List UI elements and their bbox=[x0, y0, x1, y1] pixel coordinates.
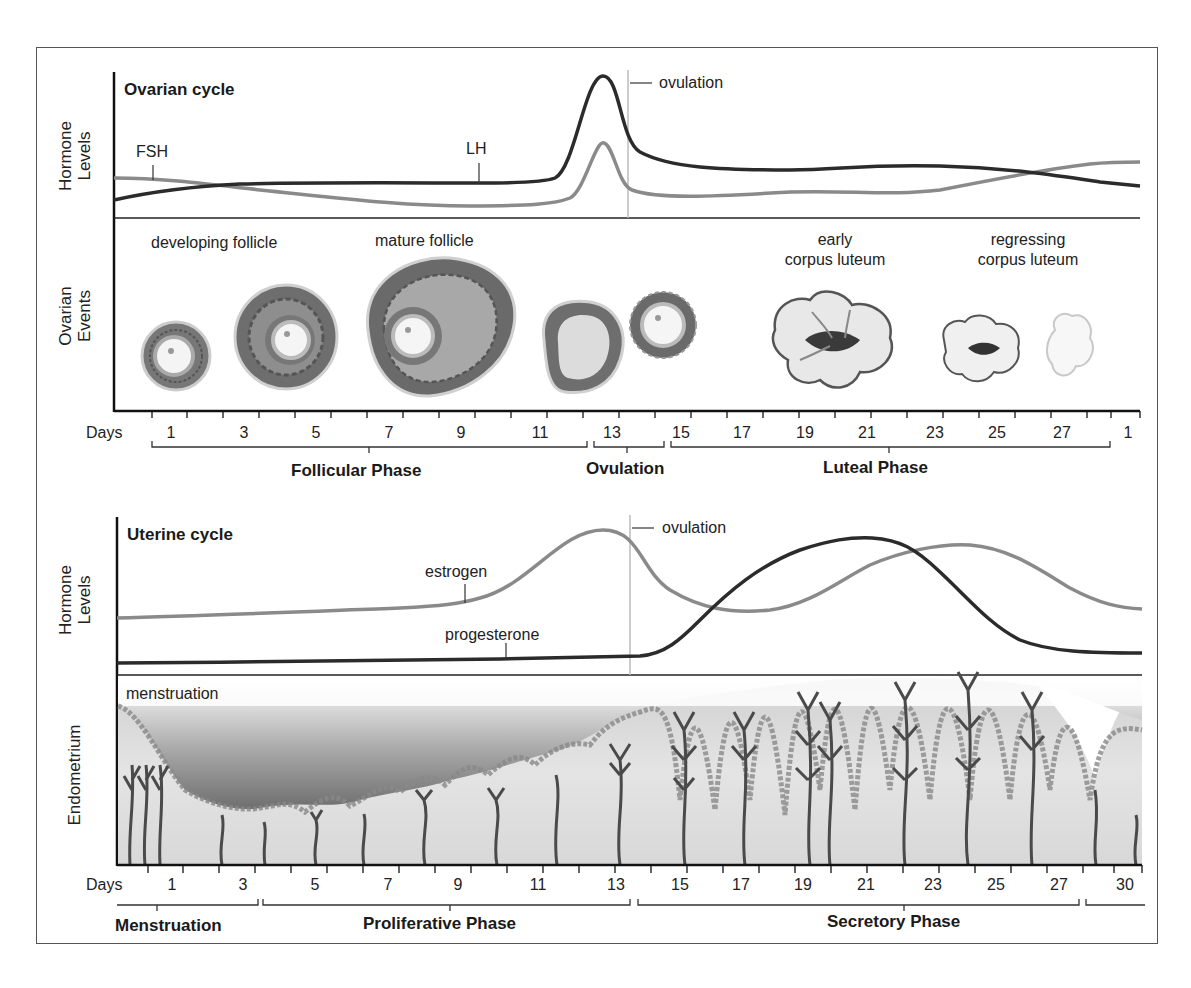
uterine-phase-brackets bbox=[117, 899, 1145, 911]
progesterone-label: progesterone bbox=[445, 626, 539, 644]
estrogen-label: estrogen bbox=[425, 563, 487, 581]
uterine-days-label: Days bbox=[86, 876, 122, 894]
endometrium-illustration bbox=[118, 672, 1142, 865]
uterine-ovulation-label: ovulation bbox=[662, 519, 726, 537]
proliferative-phase-label: Proliferative Phase bbox=[363, 914, 516, 934]
secretory-phase-label: Secretory Phase bbox=[827, 912, 960, 932]
uterine-chart-graphics bbox=[0, 0, 1191, 988]
menstruation-tissue-label: menstruation bbox=[126, 685, 219, 703]
menstruation-phase-label: Menstruation bbox=[115, 916, 222, 936]
